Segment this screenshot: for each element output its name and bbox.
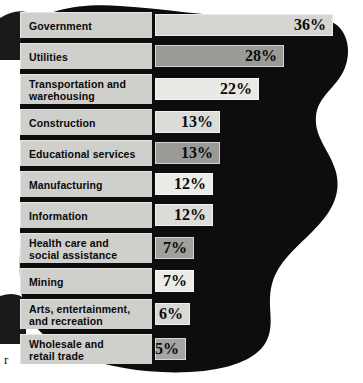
bar-track: 5% <box>155 334 350 364</box>
bar-track: 22% <box>155 74 350 104</box>
bar-value-label: 13% <box>181 114 219 130</box>
bar-track: 13% <box>155 140 350 166</box>
category-label-line1: Wholesale and <box>29 338 152 350</box>
category-label-line1: Mining <box>29 276 152 288</box>
chart-row: Manufacturing 12% <box>20 171 350 197</box>
bar-track: 13% <box>155 109 350 135</box>
horizontal-bar-chart: Government 36% Utilities 28% Transportat… <box>20 12 350 369</box>
category-label: Mining <box>20 268 152 294</box>
category-label: Construction <box>20 109 152 135</box>
category-label: Government <box>20 12 152 38</box>
category-label-line1: Health care and <box>29 237 152 249</box>
bar: 7% <box>155 237 194 259</box>
bar-value-label: 6% <box>159 306 189 322</box>
bar-value-label: 22% <box>220 81 258 97</box>
chart-row: Wholesale and retail trade 5% <box>20 334 350 364</box>
bar-track: 12% <box>155 202 350 228</box>
category-label: Transportation and warehousing <box>20 74 152 104</box>
bar: 22% <box>155 78 259 100</box>
bar-value-label: 36% <box>294 17 332 33</box>
chart-row: Utilities 28% <box>20 43 350 69</box>
category-label-line2: warehousing <box>29 90 152 102</box>
category-label: Health care and social assistance <box>20 233 152 263</box>
bar-track: 7% <box>155 268 350 294</box>
category-label-line1: Arts, entertainment, <box>29 303 152 315</box>
bar: 12% <box>155 173 213 195</box>
category-label: Information <box>20 202 152 228</box>
bar: 12% <box>155 204 213 226</box>
category-label: Wholesale and retail trade <box>20 334 152 364</box>
bar-track: 28% <box>155 43 350 69</box>
bar-value-label: 12% <box>174 207 212 223</box>
chart-row: Arts, entertainment, and recreation 6% <box>20 299 350 329</box>
category-label-line1: Construction <box>29 117 152 129</box>
category-label: Educational services <box>20 140 152 166</box>
chart-row: Mining 7% <box>20 268 350 294</box>
figure-canvas: Government 36% Utilities 28% Transportat… <box>0 0 363 383</box>
category-label-line2: social assistance <box>29 249 152 261</box>
category-label-line1: Manufacturing <box>29 179 152 191</box>
bar-value-label: 13% <box>181 145 219 161</box>
bar: 28% <box>155 45 284 67</box>
bar-track: 7% <box>155 233 350 263</box>
category-label-line2: retail trade <box>29 350 152 362</box>
bar-track: 6% <box>155 299 350 329</box>
bar-value-label: 28% <box>245 48 283 64</box>
bar: 7% <box>155 270 194 292</box>
chart-row: Educational services 13% <box>20 140 350 166</box>
bar-value-label: 7% <box>163 273 193 289</box>
category-label-line1: Utilities <box>29 51 152 63</box>
category-label-line1: Educational services <box>29 148 152 160</box>
category-label: Manufacturing <box>20 171 152 197</box>
bar: 36% <box>155 14 333 36</box>
bar-track: 36% <box>155 12 350 38</box>
category-label: Arts, entertainment, and recreation <box>20 299 152 329</box>
margin-glyph: r <box>4 352 8 368</box>
category-label-line2: and recreation <box>29 315 152 327</box>
bar-track: 12% <box>155 171 350 197</box>
chart-row: Transportation and warehousing 22% <box>20 74 350 104</box>
chart-row: Information 12% <box>20 202 350 228</box>
bar-value-label: 5% <box>155 341 185 357</box>
chart-row: Government 36% <box>20 12 350 38</box>
bar-value-label: 12% <box>174 176 212 192</box>
category-label: Utilities <box>20 43 152 69</box>
bar-value-label: 7% <box>163 240 193 256</box>
bar: 5% <box>155 338 186 360</box>
category-label-line1: Government <box>29 20 152 32</box>
category-label-line1: Transportation and <box>29 78 152 90</box>
bar: 13% <box>155 142 220 164</box>
bar: 6% <box>155 303 190 325</box>
bar: 13% <box>155 111 220 133</box>
chart-row: Construction 13% <box>20 109 350 135</box>
category-label-line1: Information <box>29 210 152 222</box>
chart-row: Health care and social assistance 7% <box>20 233 350 263</box>
